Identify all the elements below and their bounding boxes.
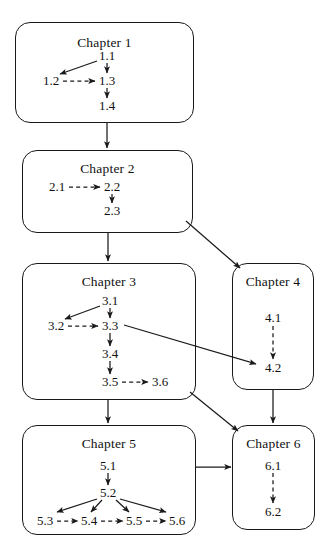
node-5-1[interactable]: 5.1 — [100, 458, 116, 474]
node-3-3[interactable]: 3.3 — [102, 318, 118, 334]
node-4-2[interactable]: 4.2 — [265, 360, 281, 376]
chapter-title-3: Chapter 3 — [23, 274, 195, 290]
node-2-2[interactable]: 2.2 — [104, 179, 120, 195]
chapter-title-6: Chapter 6 — [233, 436, 314, 452]
node-5-4[interactable]: 5.4 — [81, 513, 97, 529]
node-1-3[interactable]: 1.3 — [99, 73, 115, 89]
chapter-title-4: Chapter 4 — [233, 274, 313, 290]
node-5-6[interactable]: 5.6 — [169, 513, 185, 529]
node-3-5[interactable]: 3.5 — [102, 374, 118, 390]
node-1-2[interactable]: 1.2 — [43, 73, 59, 89]
chapter-title-2: Chapter 2 — [23, 161, 192, 177]
node-3-2[interactable]: 3.2 — [48, 318, 64, 334]
chapter-title-5: Chapter 5 — [23, 436, 195, 452]
node-5-3[interactable]: 5.3 — [37, 513, 53, 529]
node-3-1[interactable]: 3.1 — [102, 293, 118, 309]
node-1-1[interactable]: 1.1 — [99, 48, 115, 64]
node-3-6[interactable]: 3.6 — [152, 374, 168, 390]
node-6-1[interactable]: 6.1 — [265, 458, 281, 474]
node-6-2[interactable]: 6.2 — [265, 504, 281, 520]
node-1-4[interactable]: 1.4 — [99, 98, 115, 114]
node-3-4[interactable]: 3.4 — [102, 346, 118, 362]
node-2-1[interactable]: 2.1 — [49, 179, 65, 195]
edge-chapter2-chapter4 — [186, 221, 240, 268]
node-5-2[interactable]: 5.2 — [100, 485, 116, 501]
diagram-canvas: Chapter 1 1.1 1.2 1.3 1.4 Chapter 2 2.1 … — [0, 0, 334, 550]
edge-chapter3-chapter6 — [190, 392, 238, 431]
node-5-5[interactable]: 5.5 — [126, 513, 142, 529]
node-4-1[interactable]: 4.1 — [265, 310, 281, 326]
node-2-3[interactable]: 2.3 — [104, 203, 120, 219]
